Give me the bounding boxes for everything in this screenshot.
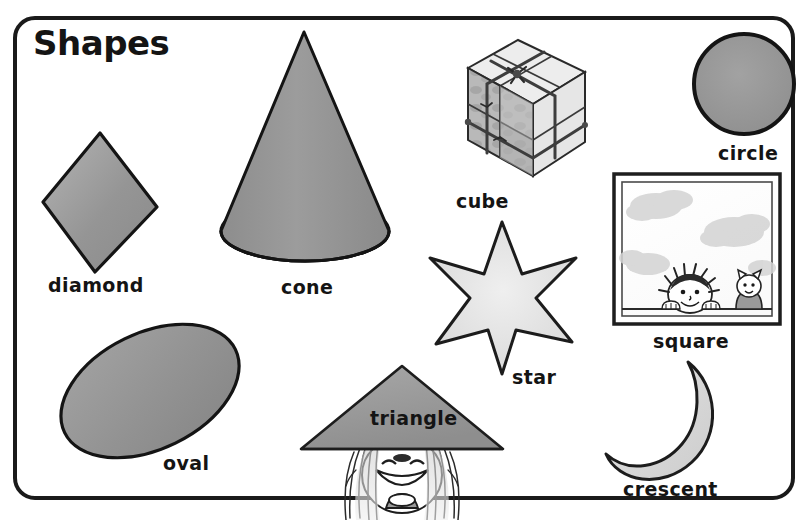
square-label: square	[653, 330, 729, 352]
cube-label: cube	[456, 190, 509, 212]
triangle-shape	[290, 360, 515, 520]
crescent-label: crescent	[623, 478, 718, 500]
oval-shape	[50, 325, 250, 460]
shapes-poster: Shapes diamond	[0, 0, 811, 520]
star-shape	[422, 218, 582, 378]
crescent-shape	[600, 358, 730, 488]
circle-label: circle	[718, 142, 778, 164]
cone-shape	[215, 28, 400, 273]
cone-label: cone	[281, 276, 333, 298]
circle-shape	[690, 30, 798, 138]
cube-shape	[425, 30, 597, 182]
oval-label: oval	[163, 452, 209, 474]
diamond-shape	[40, 130, 160, 275]
diamond-label: diamond	[48, 274, 144, 296]
star-label: star	[512, 366, 556, 388]
page-title: Shapes	[33, 24, 169, 62]
triangle-label: triangle	[370, 407, 458, 429]
square-shape	[612, 172, 782, 327]
